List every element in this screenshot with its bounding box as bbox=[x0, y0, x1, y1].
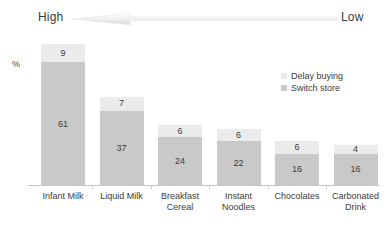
arrow-label-high: High bbox=[38, 10, 63, 24]
bar-value-label: 6 bbox=[236, 131, 241, 140]
bar-segment-delay-buying[interactable]: 6 bbox=[158, 125, 202, 137]
bar-segment-delay-buying[interactable]: 4 bbox=[334, 145, 378, 153]
bar-value-label: 37 bbox=[116, 144, 126, 153]
bar-value-label: 7 bbox=[119, 99, 124, 108]
bar-value-label: 16 bbox=[292, 165, 302, 174]
bar-segment-switch-store[interactable]: 16 bbox=[275, 154, 319, 186]
bar-value-label: 6 bbox=[294, 143, 299, 152]
x-axis-category-label: CarbonatedDrink bbox=[319, 191, 387, 213]
bar-group[interactable]: 624 bbox=[158, 125, 202, 186]
bar-segment-switch-store[interactable]: 24 bbox=[158, 137, 202, 186]
bar-segment-switch-store[interactable]: 16 bbox=[334, 154, 378, 186]
bar-group[interactable]: 416 bbox=[334, 145, 378, 186]
x-axis-tick bbox=[326, 185, 327, 189]
bar-group[interactable]: 737 bbox=[100, 97, 144, 186]
x-axis-tick bbox=[268, 185, 269, 189]
plot-area: 961737624622616416 bbox=[28, 34, 380, 186]
bar-segment-switch-store[interactable]: 37 bbox=[100, 111, 144, 186]
bar-segment-delay-buying[interactable]: 6 bbox=[275, 141, 319, 153]
bar-value-label: 9 bbox=[60, 49, 65, 58]
x-axis-tick bbox=[151, 185, 152, 189]
bar-group[interactable]: 616 bbox=[275, 141, 319, 186]
bar-value-label: 22 bbox=[233, 159, 243, 168]
bar-group[interactable]: 961 bbox=[41, 44, 85, 186]
bar-value-label: 16 bbox=[350, 165, 360, 174]
high-low-arrow-band: High Low bbox=[0, 4, 387, 32]
bar-value-label: 61 bbox=[58, 120, 68, 129]
bar-segment-delay-buying[interactable]: 7 bbox=[100, 97, 144, 111]
bar-segment-switch-store[interactable]: 61 bbox=[41, 62, 85, 186]
x-axis-tick bbox=[209, 185, 210, 189]
arrow-label-low: Low bbox=[341, 10, 364, 24]
left-arrow-gradient-icon bbox=[72, 11, 337, 27]
y-axis-title: % bbox=[12, 59, 20, 69]
bar-value-label: 24 bbox=[175, 157, 185, 166]
x-axis-tick bbox=[92, 185, 93, 189]
chart-container: High Low % Delay buying Switch store 961… bbox=[0, 0, 387, 229]
bar-segment-switch-store[interactable]: 22 bbox=[217, 141, 261, 186]
bar-segment-delay-buying[interactable]: 6 bbox=[217, 129, 261, 141]
bar-segment-delay-buying[interactable]: 9 bbox=[41, 44, 85, 62]
bar-group[interactable]: 622 bbox=[217, 129, 261, 186]
bar-value-label: 6 bbox=[177, 127, 182, 136]
